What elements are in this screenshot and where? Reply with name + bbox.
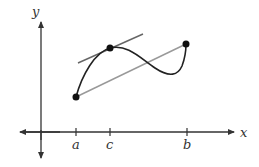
point-b — [183, 41, 190, 48]
tick-label-a: a — [72, 137, 80, 152]
x-axis-label: x — [240, 125, 248, 140]
tick-label-b: b — [183, 137, 191, 152]
mvt-diagram: y x a c b — [0, 0, 259, 167]
y-axis-label: y — [31, 4, 40, 19]
tick-label-c: c — [106, 137, 114, 152]
point-c — [107, 45, 114, 52]
point-a — [73, 94, 80, 101]
